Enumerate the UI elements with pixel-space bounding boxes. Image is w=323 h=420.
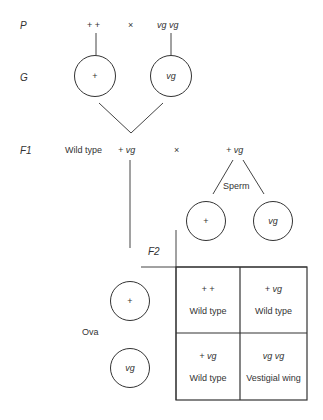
sperm-vg-allele: vg xyxy=(268,216,278,226)
cell-phenotype: Wild type xyxy=(189,373,226,383)
punnett-cell-plus-vg-top: + vg Wild type xyxy=(240,267,307,333)
generation-label-p: P xyxy=(20,20,27,31)
ova-circle-vg: vg xyxy=(110,348,150,388)
cell-phenotype: Wild type xyxy=(255,306,292,316)
punnett-cell-vg-vg: vg vg Vestigial wing xyxy=(240,333,307,400)
punnett-cell-plus-vg-bottom: + vg Wild type xyxy=(176,333,240,400)
f1-left-genotype: + vg xyxy=(118,145,135,155)
generation-label-f1: F1 xyxy=(20,145,32,156)
sperm-label: Sperm xyxy=(223,181,250,191)
generation-label-f2: F2 xyxy=(148,246,160,257)
sperm-circle-plus: + xyxy=(186,201,226,241)
gamete-circle-right: vg xyxy=(150,55,192,97)
cell-genotype: vg vg xyxy=(263,351,285,361)
cell-genotype: + + xyxy=(201,284,214,294)
gamete-right-allele: vg xyxy=(166,71,176,81)
cell-genotype: + vg xyxy=(199,351,216,361)
generation-label-g: G xyxy=(20,72,28,83)
parent-genotype-left: + + xyxy=(87,20,100,30)
parent-genotype-right: vg vg xyxy=(157,20,179,30)
ova-circle-plus: + xyxy=(110,281,150,321)
cross-symbol-p: × xyxy=(128,20,133,30)
cell-phenotype: Wild type xyxy=(189,306,226,316)
gamete-left-allele: + xyxy=(92,71,97,81)
sperm-plus-allele: + xyxy=(203,216,208,226)
ova-plus-allele: + xyxy=(127,296,132,306)
ova-vg-allele: vg xyxy=(125,363,135,373)
f1-phenotype-label: Wild type xyxy=(65,145,102,155)
cross-symbol-f1: × xyxy=(174,145,179,155)
sperm-circle-vg: vg xyxy=(253,201,293,241)
gamete-circle-left: + xyxy=(74,55,116,97)
cell-genotype: + vg xyxy=(265,284,282,294)
ova-label: Ova xyxy=(82,327,99,337)
f1-right-genotype: + vg xyxy=(226,145,243,155)
cell-phenotype: Vestigial wing xyxy=(246,373,301,383)
punnett-cell-plus-plus: + + Wild type xyxy=(176,267,240,333)
